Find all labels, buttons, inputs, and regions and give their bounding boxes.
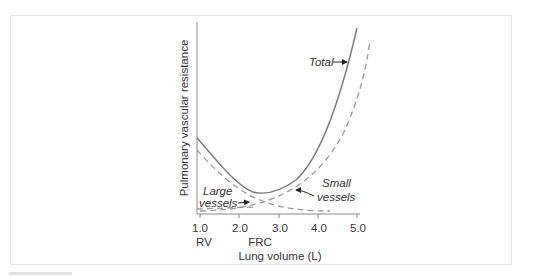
tick-label: 1.0 bbox=[192, 222, 208, 234]
large-vessels-annotation-line2: vessels bbox=[199, 197, 238, 209]
small-vessels-annotation-line2: vessels bbox=[317, 191, 356, 203]
rv-label: RV bbox=[196, 236, 212, 248]
tick-label: 4.0 bbox=[311, 222, 327, 234]
chart-svg: 1.0 2.0 3.0 4.0 5.0 RV FRC Lung volume (… bbox=[0, 0, 547, 277]
tick-label: 3.0 bbox=[272, 222, 288, 234]
frc-label: FRC bbox=[248, 236, 272, 248]
small-vessels-annotation-line1: Small bbox=[322, 177, 351, 189]
x-ticks bbox=[200, 214, 357, 218]
tick-label: 5.0 bbox=[350, 222, 366, 234]
total-curve bbox=[197, 28, 357, 193]
y-axis-title: Pulmonary vascular resistance bbox=[178, 40, 190, 197]
total-annotation: Total bbox=[309, 56, 334, 68]
tick-label: 2.0 bbox=[232, 222, 248, 234]
x-axis-title: Lung volume (L) bbox=[238, 250, 321, 262]
small-vessels-arrow bbox=[296, 190, 314, 196]
large-vessels-annotation-line1: Large bbox=[203, 185, 232, 197]
large-vessels-arrow bbox=[238, 202, 249, 203]
